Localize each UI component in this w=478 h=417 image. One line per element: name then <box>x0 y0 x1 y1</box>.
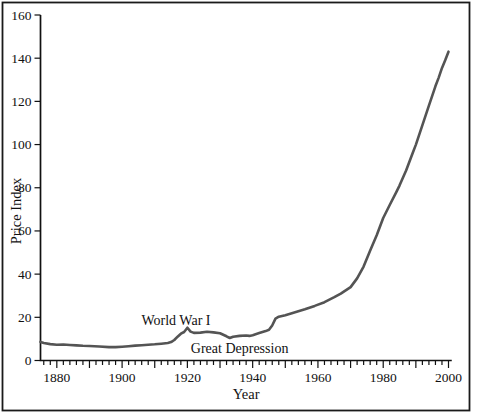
x-tick-label: 1900 <box>109 370 136 385</box>
x-tick-label: 1920 <box>174 370 201 385</box>
x-axis-ticks <box>44 361 449 369</box>
y-tick-label: 120 <box>11 94 32 109</box>
y-tick-label: 20 <box>18 310 32 325</box>
x-axis-tick-labels: 1880190019201940196019802000 <box>43 370 462 385</box>
x-tick-label: 1940 <box>239 370 266 385</box>
y-tick-label: 0 <box>25 353 32 368</box>
annotation-world-war-1: World War I <box>141 313 210 328</box>
y-tick-label: 160 <box>11 8 32 23</box>
y-axis-ticks <box>35 15 41 361</box>
x-tick-label: 1980 <box>370 370 397 385</box>
figure-canvas: 020406080100120140160 188019001920194019… <box>0 0 478 417</box>
y-tick-label: 40 <box>18 267 32 282</box>
x-tick-label: 1880 <box>43 370 70 385</box>
x-tick-label: 1960 <box>304 370 331 385</box>
x-axis-title: Year <box>233 386 260 402</box>
y-axis-title: Price Index <box>8 177 24 244</box>
axes-lines <box>41 15 452 361</box>
y-tick-label: 100 <box>11 137 32 152</box>
price-index-chart: 020406080100120140160 188019001920194019… <box>0 0 478 417</box>
y-tick-label: 140 <box>11 51 32 66</box>
x-tick-label: 2000 <box>435 370 462 385</box>
annotation-great-depression: Great Depression <box>191 341 289 356</box>
price-index-line <box>41 52 449 347</box>
